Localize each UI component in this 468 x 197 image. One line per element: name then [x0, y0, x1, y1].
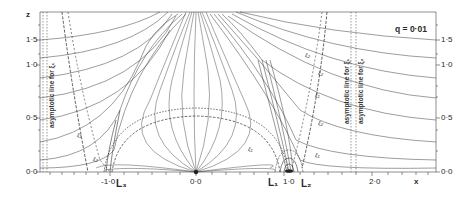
- x-ticks: [50, 172, 428, 176]
- x-tick-2: 2·0: [369, 177, 381, 186]
- z-tick-right-05: 0·5: [441, 113, 453, 122]
- right-asymptote-label-2: asymptotic line for ξ₂: [357, 59, 364, 124]
- right-asymptote-lines: [351, 12, 356, 172]
- curve-label-xi1-left: ξ₁: [77, 132, 82, 138]
- curve-label-xi1-right-upper: ξ₁: [315, 92, 320, 98]
- lagrange-point-l1: L₁: [268, 177, 278, 188]
- curve-label-xi2-right-upper: ξ₂: [318, 70, 323, 76]
- left-ticks: [36, 25, 40, 172]
- lagrange-point-l2: L₂: [301, 178, 312, 189]
- z-tick-right-10: 1·0: [441, 60, 453, 69]
- z-tick-right-0: 0·0: [441, 167, 453, 176]
- x-axis-label: x: [414, 177, 418, 186]
- x-tick-0: 0·0: [190, 177, 202, 186]
- l3-cusp: [106, 110, 120, 172]
- z-tick-left-0: 0·0: [26, 167, 38, 176]
- left-asymptote-lines: [43, 12, 47, 172]
- mass-ratio-label: q = 0·01: [395, 24, 427, 34]
- primary-lobe-curves: [104, 108, 288, 172]
- right-asymptote-label-1: asymptotic line for ξ₁: [343, 59, 350, 124]
- z-tick-left-15: 1·5: [26, 35, 38, 44]
- secondary-lobe-curves: [258, 60, 303, 172]
- z-axis-label: z: [26, 10, 30, 19]
- right-ticks: [436, 25, 440, 172]
- left-asymptote-label: asymptotic line for ξ₁: [48, 63, 55, 128]
- curve-label-xi1-right-top: ξ₂: [305, 52, 310, 58]
- z-tick-right-15: 1·5: [441, 35, 453, 44]
- primary-mass-point: [194, 170, 198, 174]
- x-tick-neg1: -1·0: [101, 177, 115, 186]
- z-tick-left-10: 1·0: [26, 60, 38, 69]
- curve-label-xi2-right-mid: ξ₂: [318, 120, 323, 126]
- x-tick-1: 1·0: [283, 177, 295, 186]
- secondary-mass-point: [285, 169, 293, 173]
- lagrange-point-l3: L₃: [116, 178, 127, 189]
- curve-label-xi2-left: ξ₂: [93, 156, 98, 162]
- curve-label-xi1-right-low: ξ₁: [315, 152, 320, 158]
- z-tick-left-05: 0·5: [26, 113, 38, 122]
- right-boundary-curves: [292, 12, 327, 168]
- curve-label-xi1-mid: ξ₁: [248, 146, 253, 152]
